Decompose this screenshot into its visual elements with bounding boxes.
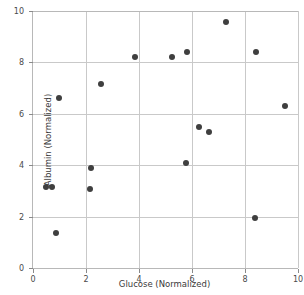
data-point bbox=[98, 81, 104, 87]
data-point bbox=[253, 49, 259, 55]
gridline-vertical bbox=[192, 11, 193, 268]
x-tick bbox=[139, 269, 140, 273]
data-point bbox=[252, 215, 258, 221]
data-point bbox=[169, 54, 175, 60]
data-point bbox=[223, 19, 229, 25]
data-point bbox=[282, 103, 288, 109]
data-point bbox=[184, 49, 190, 55]
y-tick bbox=[29, 268, 33, 269]
x-axis-title: Glucose (Normalized) bbox=[32, 279, 297, 289]
y-axis-title: Albumin (Normalized) bbox=[2, 11, 95, 268]
gridline-vertical bbox=[245, 11, 246, 268]
x-tick bbox=[192, 269, 193, 273]
x-tick bbox=[245, 269, 246, 273]
data-point bbox=[183, 160, 189, 166]
x-tick bbox=[298, 269, 299, 273]
gridline-vertical bbox=[298, 11, 299, 268]
x-tick bbox=[86, 269, 87, 273]
y-axis-title-text: Albumin (Normalized) bbox=[43, 93, 53, 186]
scatter-chart: 0246810 0246810 Glucose (Normalized) Alb… bbox=[0, 0, 304, 295]
gridline-vertical bbox=[139, 11, 140, 268]
data-point bbox=[196, 124, 202, 130]
data-point bbox=[206, 129, 212, 135]
data-point bbox=[132, 54, 138, 60]
x-tick bbox=[33, 269, 34, 273]
